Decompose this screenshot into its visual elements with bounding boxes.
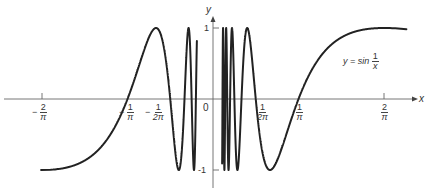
- x-tick-label-neg-1-over-pi: − 1π: [119, 103, 134, 122]
- x-tick-label-2-over-pi: 2π: [381, 103, 388, 122]
- sin-inverse-x-plot: [0, 0, 427, 191]
- y-tick-label-1: 1: [204, 24, 209, 33]
- y-axis-label: y: [206, 5, 211, 14]
- x-tick-label-1-over-2pi: 12π: [257, 103, 268, 122]
- origin-label: 0: [203, 103, 209, 112]
- x-tick-label-1-over-pi: 1π: [296, 103, 303, 122]
- y-tick-label-neg1: -1: [198, 166, 206, 175]
- x-tick-label-neg-1-over-2pi: − 12π: [145, 103, 164, 122]
- x-axis-arrow-icon: [412, 97, 418, 102]
- x-axis-label: x: [419, 94, 424, 103]
- equation-label: y = sin 1x: [343, 52, 379, 71]
- x-tick-label-neg-2-over-pi: − 2π: [32, 103, 47, 122]
- y-axis-arrow-icon: [211, 16, 216, 22]
